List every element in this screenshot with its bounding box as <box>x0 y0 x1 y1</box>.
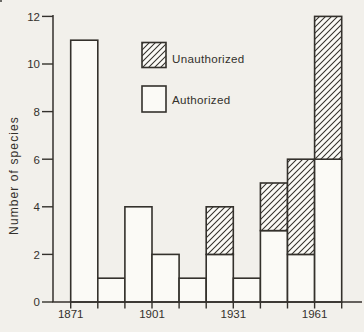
y-tick-label: 2 <box>34 249 40 261</box>
bar-unauthorized-1921 <box>206 207 233 255</box>
bar-authorized-1921 <box>206 254 233 302</box>
bar-authorized-1911 <box>179 278 206 302</box>
bar-authorized-1951 <box>288 254 315 302</box>
bar-authorized-1891 <box>125 207 152 302</box>
x-tick-label: 1871 <box>58 308 84 320</box>
authorized-open-swatch-icon <box>142 86 166 112</box>
bar-authorized-1871 <box>71 40 98 302</box>
species-introductions-bar-chart: 0246810121871190119311961 Unauthorized A… <box>0 0 364 332</box>
x-tick-label: 1901 <box>139 308 165 320</box>
y-tick-label: 8 <box>34 106 40 118</box>
bar-authorized-1931 <box>233 278 260 302</box>
bar-authorized-1961 <box>315 159 342 302</box>
y-tick-label: 6 <box>34 154 40 166</box>
unauthorized-hatched-swatch-icon <box>142 43 166 68</box>
x-tick-label: 1931 <box>221 308 247 320</box>
bar-authorized-1901 <box>152 254 179 302</box>
legend-label-authorized: Authorized <box>172 93 230 106</box>
bar-unauthorized-1941 <box>260 183 287 231</box>
y-axis-title: Number of species <box>7 116 21 235</box>
bar-unauthorized-1961 <box>315 16 342 159</box>
y-tick-label: 12 <box>27 11 40 23</box>
bar-authorized-1941 <box>260 231 287 302</box>
y-tick-label: 4 <box>34 201 41 213</box>
legend: Unauthorized Authorized <box>142 43 245 113</box>
y-tick-label: 10 <box>27 58 40 70</box>
bar-unauthorized-1951 <box>288 159 315 254</box>
y-tick-label: 0 <box>34 296 40 308</box>
chart-canvas: 0246810121871190119311961 Unauthorized A… <box>0 0 364 332</box>
x-tick-label: 1961 <box>302 308 328 320</box>
legend-label-unauthorized: Unauthorized <box>172 52 245 65</box>
bar-authorized-1881 <box>98 278 125 302</box>
